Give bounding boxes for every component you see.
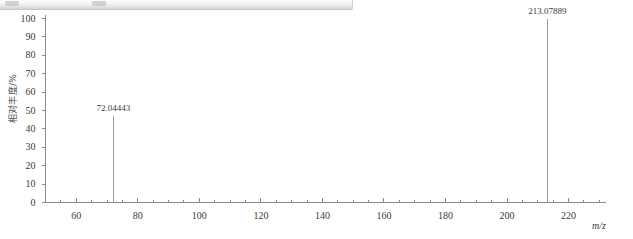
spectrum-viewer: 相对丰度/% m/z 0102030405060708090100 608010… xyxy=(0,0,633,239)
y-tick-label: 60 xyxy=(10,87,36,97)
x-tick-label: 200 xyxy=(487,211,527,221)
mass-spectrum-chart[interactable]: 相对丰度/% m/z 0102030405060708090100 608010… xyxy=(0,0,633,239)
y-tick-label: 0 xyxy=(10,198,36,208)
y-tick-label: 100 xyxy=(10,14,36,24)
x-tick-label: 80 xyxy=(118,211,158,221)
x-tick-label: 120 xyxy=(241,211,281,221)
x-tick-label: 180 xyxy=(426,211,466,221)
y-tick-label: 50 xyxy=(10,106,36,116)
x-tick-label: 140 xyxy=(302,211,342,221)
y-tick-label: 10 xyxy=(10,179,36,189)
y-tick-label: 30 xyxy=(10,142,36,152)
y-tick-label: 90 xyxy=(10,32,36,42)
peak-label: 213.07889 xyxy=(497,6,597,16)
x-tick-label: 160 xyxy=(364,211,404,221)
y-tick-label: 20 xyxy=(10,161,36,171)
peak-label: 72.04443 xyxy=(63,103,163,113)
x-tick-label: 100 xyxy=(179,211,219,221)
y-tick-label: 40 xyxy=(10,124,36,134)
y-tick-label: 70 xyxy=(10,69,36,79)
y-tick-label: 80 xyxy=(10,50,36,60)
x-tick-label: 60 xyxy=(56,211,96,221)
x-tick-label: 220 xyxy=(549,211,589,221)
x-axis-title: m/z xyxy=(592,220,606,231)
chart-axes xyxy=(0,0,633,239)
